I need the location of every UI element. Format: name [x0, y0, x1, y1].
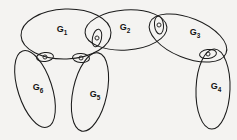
graph-decomposition-diagram: G1 G2 G3 G4 G5 G6 [0, 0, 237, 140]
region-label-g4: G4 [211, 81, 222, 92]
region-label-g6: G6 [33, 82, 44, 93]
region-label-g5: G5 [90, 89, 101, 100]
region-labels: G1 G2 G3 G4 G5 G6 [33, 22, 222, 100]
region-label-g3: G3 [190, 27, 201, 38]
region-label-g2: G2 [120, 22, 131, 33]
joint-g3-g4-icon [199, 48, 217, 59]
joint-g1-g2-icon [91, 28, 104, 47]
figure-canvas: G1 G2 G3 G4 G5 G6 [0, 0, 237, 140]
region-label-g1: G1 [57, 24, 68, 35]
